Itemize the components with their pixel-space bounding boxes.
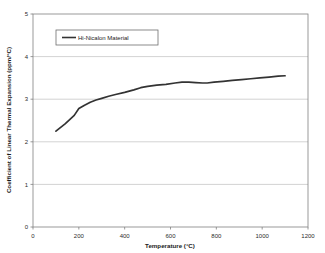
legend-entry-label: Hi-Nicalon Material: [78, 35, 129, 41]
thermal-expansion-line-chart: 020040060080010001200 012345 Hi-Nicalon …: [0, 0, 325, 253]
x-tick-label-800: 800: [211, 233, 222, 239]
chart-figure: 020040060080010001200 012345 Hi-Nicalon …: [0, 0, 325, 253]
chart-legend[interactable]: Hi-Nicalon Material: [56, 30, 158, 45]
x-tick-label-1200: 1200: [301, 233, 315, 239]
x-axis-title: Temperature (°C): [145, 242, 195, 249]
plot-area-background: [33, 14, 308, 227]
x-tick-label-1000: 1000: [255, 233, 269, 239]
x-tick-label-200: 200: [74, 233, 85, 239]
y-axis-title: Coefficient of Linear Thermal Expansion …: [5, 47, 12, 193]
x-tick-label-600: 600: [165, 233, 176, 239]
x-tick-label-400: 400: [120, 233, 131, 239]
